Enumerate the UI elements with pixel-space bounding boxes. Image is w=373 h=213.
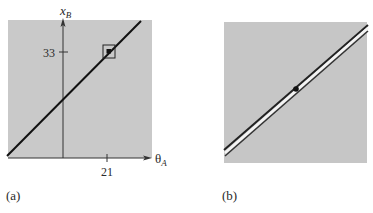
data-point: [107, 49, 112, 54]
figure: 33 21 xB θA (a) (b): [0, 0, 373, 213]
panel-b: (b): [222, 22, 368, 203]
panel-a-background: [8, 20, 152, 158]
panel-a: 33 21 xB θA (a): [6, 3, 167, 203]
y-tick-label: 33: [43, 46, 55, 60]
x-tick-label: 21: [101, 165, 113, 179]
panel-a-label: (a): [6, 188, 20, 203]
y-axis-label: xB: [59, 3, 72, 20]
x-axis-label: θA: [155, 151, 167, 168]
panel-b-label: (b): [222, 188, 237, 203]
center-point: [293, 86, 299, 92]
